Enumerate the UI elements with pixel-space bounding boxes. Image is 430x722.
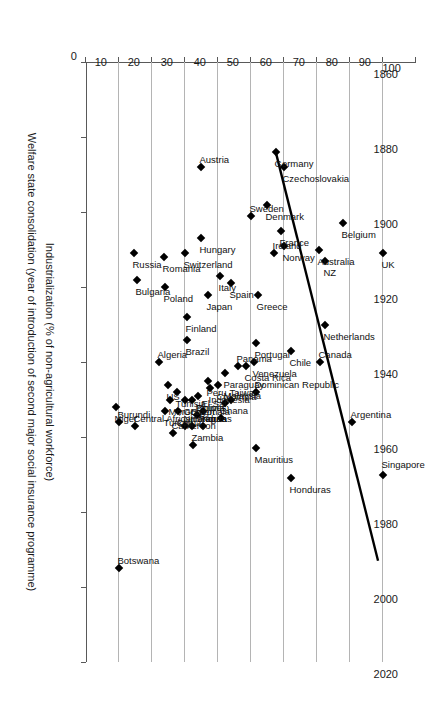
point-label: Honduras	[289, 484, 330, 495]
y-tick-label-0: 0	[71, 50, 77, 62]
point-label: UK	[382, 259, 395, 270]
point-label: Czechoslovakia	[283, 173, 350, 184]
point-label: Algeria	[157, 349, 187, 360]
point-label: Russia	[132, 259, 161, 270]
point-label: Zambia	[192, 431, 224, 442]
point-label: Ireland	[273, 240, 302, 251]
point-label: Austria	[200, 154, 230, 165]
point-label: Burundi	[118, 409, 151, 420]
point-label: Italy	[218, 281, 235, 292]
x-tick-2020	[81, 662, 86, 663]
point-label: Norway	[283, 251, 315, 262]
point-label: Germany	[274, 158, 313, 169]
plot-area: 186018801900192019401960198020002020 010…	[86, 62, 416, 662]
point-label: Sweden	[250, 202, 284, 213]
point-label: Romania	[162, 263, 200, 274]
point-label: Paraguay	[223, 379, 264, 390]
scatter-plot-figure: 186018801900192019401960198020002020 010…	[0, 0, 430, 722]
point-label: Finland	[185, 323, 216, 334]
point-label: Hungary	[200, 244, 236, 255]
point-label: Singapore	[382, 458, 425, 469]
point-label: Brazil	[185, 345, 209, 356]
point-label: Greece	[256, 300, 287, 311]
point-label: Australia	[317, 255, 354, 266]
point-label: Botswana	[118, 555, 160, 566]
y-axis-title: Industrialization (% of non-agricultural…	[44, 62, 56, 662]
point-label: Mauritius	[254, 454, 293, 465]
point-label: Peru	[207, 386, 227, 397]
point-label: Panama	[236, 352, 271, 363]
point-label: NZ	[324, 266, 337, 277]
point-label: Chile	[289, 356, 311, 367]
point-label: Belgium	[342, 229, 376, 240]
x-axis-title: Welfare state consolidation (year of int…	[26, 62, 38, 662]
point-label: Netherlands	[324, 330, 375, 341]
point-label: Japan	[207, 300, 233, 311]
point-label: Argentina	[350, 409, 391, 420]
x-tick-label-2020: 2020	[374, 668, 398, 680]
point-label: Bulgaria	[136, 285, 171, 296]
figure-canvas: 186018801900192019401960198020002020 010…	[0, 0, 430, 722]
point-label: Canada	[319, 349, 352, 360]
